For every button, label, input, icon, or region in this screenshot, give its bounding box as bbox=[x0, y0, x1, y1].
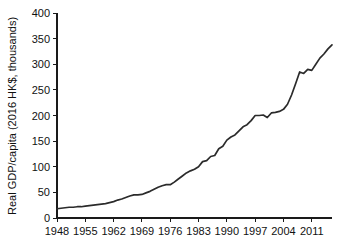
y-tick-label: 200 bbox=[32, 110, 50, 122]
x-tick-label: 1990 bbox=[215, 225, 239, 237]
gdp-per-capita-line-chart: 050100150200250300350400 194819551962196… bbox=[0, 0, 339, 247]
x-tick-label: 2011 bbox=[300, 225, 324, 237]
y-tick-label: 100 bbox=[32, 161, 50, 173]
x-tick-label: 1948 bbox=[45, 225, 69, 237]
x-tick-label: 1969 bbox=[130, 225, 154, 237]
x-tick-label: 2004 bbox=[271, 225, 295, 237]
y-axis-title-group: Real GDP/capita (2016 HK$, thousands) bbox=[6, 17, 18, 215]
y-tick-label: 150 bbox=[32, 135, 50, 147]
chart-container: 050100150200250300350400 194819551962196… bbox=[0, 0, 339, 247]
series-line-real-gdp-per-capita bbox=[57, 45, 332, 209]
x-axis-ticks: 1948195519621969197619831990199720042011 bbox=[45, 218, 324, 237]
axes-group bbox=[57, 13, 332, 218]
y-axis-ticks: 050100150200250300350400 bbox=[32, 7, 57, 224]
series-group bbox=[57, 45, 332, 209]
x-tick-label: 1955 bbox=[73, 225, 97, 237]
y-tick-label: 400 bbox=[32, 7, 50, 19]
y-tick-label: 0 bbox=[44, 212, 50, 224]
y-tick-label: 50 bbox=[38, 186, 50, 198]
x-tick-label: 1962 bbox=[101, 225, 125, 237]
y-tick-label: 300 bbox=[32, 58, 50, 70]
x-tick-label: 1983 bbox=[186, 225, 210, 237]
x-tick-label: 1997 bbox=[243, 225, 267, 237]
y-tick-label: 350 bbox=[32, 33, 50, 45]
x-tick-label: 1976 bbox=[158, 225, 182, 237]
y-tick-label: 250 bbox=[32, 84, 50, 96]
y-axis-title: Real GDP/capita (2016 HK$, thousands) bbox=[6, 17, 18, 215]
